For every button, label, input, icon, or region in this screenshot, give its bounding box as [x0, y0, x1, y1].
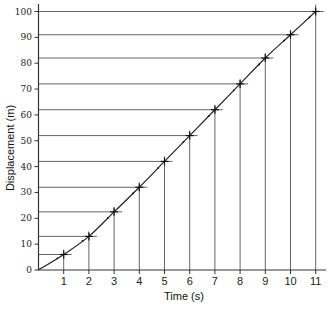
y-axis-ticks: 0102030405060708090100: [15, 7, 39, 276]
mid-dot: [107, 217, 109, 219]
mid-dot: [258, 64, 260, 66]
y-tick-label: 10: [21, 239, 33, 249]
y-tick-label: 90: [21, 32, 33, 42]
x-tick-label: 9: [262, 275, 268, 287]
mid-dot: [208, 115, 210, 117]
x-tick-label: 11: [310, 275, 321, 287]
y-tick-label: 60: [21, 110, 33, 120]
x-tick-label: 10: [284, 275, 296, 287]
x-axis-ticks: 1234567891011: [61, 270, 322, 287]
x-tick-label: 2: [86, 275, 92, 287]
mid-dot: [233, 89, 235, 91]
data-curve: [39, 12, 316, 271]
axes: [39, 4, 327, 270]
x-tick-label: 5: [161, 275, 167, 287]
x-tick-label: 7: [212, 275, 218, 287]
mid-dot: [283, 40, 285, 42]
x-tick-label: 8: [237, 275, 243, 287]
x-tick-label: 4: [136, 275, 142, 287]
mid-dot: [157, 167, 159, 169]
x-tick-label: 6: [187, 275, 193, 287]
y-tick-label: 80: [21, 58, 33, 68]
displacement-curve: [39, 12, 316, 271]
data-point-markers: [57, 8, 320, 260]
x-tick-label: 3: [111, 275, 117, 287]
mid-dot: [132, 193, 134, 195]
mid-dot: [57, 257, 59, 259]
mid-dot: [309, 16, 311, 18]
y-tick-label: 30: [21, 187, 33, 197]
x-axis-title: Time (s): [164, 290, 204, 302]
mid-dot: [82, 240, 84, 242]
y-tick-label: 100: [15, 7, 32, 17]
y-tick-label: 40: [21, 162, 33, 172]
drop-lines: [39, 5, 324, 271]
mid-dot: [183, 141, 185, 143]
y-tick-label: 0: [26, 265, 32, 275]
displacement-time-chart: 0102030405060708090100 1234567891011 Tim…: [0, 0, 328, 312]
y-tick-label: 70: [21, 84, 33, 94]
x-tick-label: 1: [61, 275, 67, 287]
y-tick-label: 20: [21, 213, 33, 223]
y-tick-label: 50: [21, 136, 33, 146]
y-axis-title: Displacement (m): [4, 105, 16, 191]
